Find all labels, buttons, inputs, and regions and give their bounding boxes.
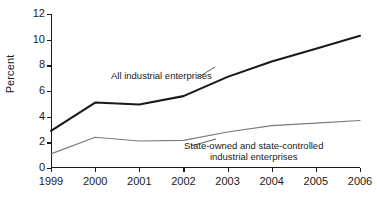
x-tick-mark <box>228 168 229 172</box>
x-tick-label: 1999 <box>39 175 63 187</box>
x-tick-mark <box>51 168 52 172</box>
x-tick-label: 2005 <box>304 175 328 187</box>
y-tick-label: 8 <box>39 58 45 70</box>
x-tick-label: 2006 <box>348 175 372 187</box>
x-tick-label: 2001 <box>127 175 151 187</box>
x-tick-mark <box>139 168 140 172</box>
x-tick-mark <box>183 168 184 172</box>
annotation-state-owned-enterprises: State-owned and state-controlled industr… <box>184 140 323 162</box>
y-tick-label: 12 <box>33 7 45 19</box>
annotation-all-text: All industrial enterprises <box>111 70 212 81</box>
y-tick-label: 6 <box>39 84 45 96</box>
y-tick-label: 10 <box>33 33 45 45</box>
y-tick-label: 4 <box>39 110 45 122</box>
x-tick-mark <box>316 168 317 172</box>
annotation-soe-text-line1: State-owned and state-controlled <box>184 140 323 151</box>
x-tick-label: 2002 <box>171 175 195 187</box>
x-tick-label: 2000 <box>83 175 107 187</box>
y-tick-label: 2 <box>39 135 45 147</box>
x-tick-mark <box>360 168 361 172</box>
annotation-soe-text-line2: industrial enterprises <box>184 151 323 162</box>
x-tick-label: 2004 <box>259 175 283 187</box>
annotation-all-industrial-enterprises: All industrial enterprises <box>111 70 212 81</box>
y-axis-title: Percent <box>4 42 16 106</box>
x-tick-mark <box>272 168 273 172</box>
x-tick-mark <box>95 168 96 172</box>
x-tick-label: 2003 <box>215 175 239 187</box>
chart-figure: Percent 024681012 1999200020012002200320… <box>0 0 377 201</box>
y-tick-label: 0 <box>39 161 45 173</box>
